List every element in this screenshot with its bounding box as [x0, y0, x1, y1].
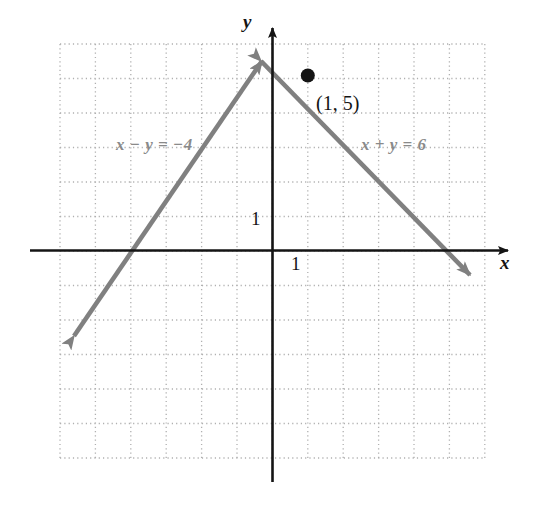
line-x-minus-y-equals-neg4: [74, 61, 262, 336]
coordinate-plane: [0, 0, 542, 512]
line-x-plus-y-equals-6: [261, 61, 470, 275]
graph-figure: x − y = −4 x + y = 6 y x 1 1 (1, 5): [0, 0, 542, 512]
axes: [30, 28, 508, 482]
intersection-point-marker: [301, 69, 315, 83]
equation-label-left: x − y = −4: [116, 136, 193, 153]
y-axis-label: y: [243, 12, 251, 31]
x-axis-tick-label: 1: [291, 254, 301, 273]
intersection-point-label: (1, 5): [316, 93, 359, 113]
y-axis-tick-label: 1: [251, 209, 261, 228]
x-axis-label: x: [500, 253, 510, 272]
equation-label-right: x + y = 6: [361, 136, 426, 153]
